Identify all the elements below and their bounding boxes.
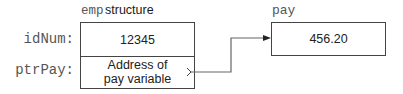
arrowhead-icon [263,35,271,41]
pointer-tail-chevron [187,68,191,76]
pointer-line [191,38,264,72]
pointer-arrow [0,0,403,94]
